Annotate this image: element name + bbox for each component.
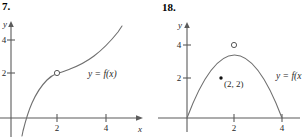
y-axis-arrowhead	[184, 22, 190, 28]
y-axis-arrowhead	[8, 21, 14, 27]
figure-panel-18: 18. 2 4 2 4 y	[152, 0, 305, 137]
y-tick-label-4: 4	[2, 35, 7, 45]
plot-18: 2 4 2 4 y (2, 2) y = f(x	[152, 0, 305, 137]
figure-panel-7: 7. 2 4 2 4 x y	[0, 0, 152, 137]
x-tick-label-4: 4	[104, 123, 109, 133]
point-coordinate-label: (2, 2)	[224, 79, 244, 89]
open-circle-marker	[231, 42, 236, 47]
curve-equation-label: y = f(x)	[87, 69, 117, 80]
x-tick-label-2: 2	[232, 123, 237, 133]
y-axis-label: y	[2, 19, 7, 29]
curve-cubic	[22, 26, 122, 136]
y-tick-label-2: 2	[177, 73, 182, 83]
filled-point-marker	[219, 76, 222, 79]
x-tick-label-4: 4	[280, 123, 285, 133]
x-axis-arrowhead	[136, 115, 143, 121]
plot-7: 2 4 2 4 x y y = f(x)	[0, 0, 152, 137]
y-axis-label: y	[177, 20, 182, 30]
y-tick-label-4: 4	[177, 40, 182, 50]
curve-equation-label: y = f(x	[275, 71, 302, 82]
x-axis-label: x	[137, 124, 142, 134]
y-tick-label-2: 2	[2, 68, 7, 78]
figure-page: 7. 2 4 2 4 x y	[0, 0, 305, 137]
open-circle-marker	[54, 70, 59, 75]
x-tick-label-2: 2	[55, 123, 60, 133]
